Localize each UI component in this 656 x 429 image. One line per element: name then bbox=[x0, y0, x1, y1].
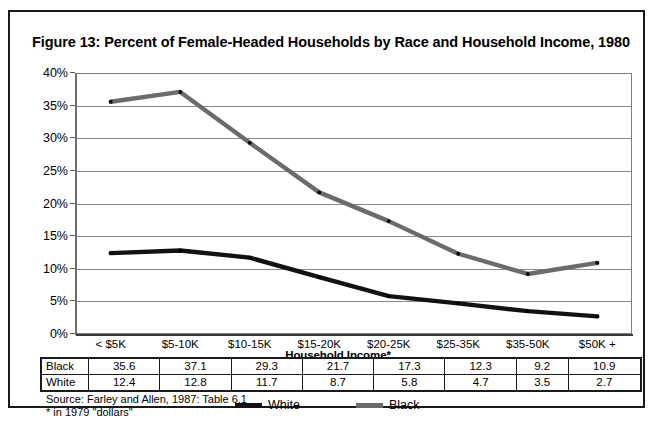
table-cell: 4.7 bbox=[445, 375, 516, 392]
y-tick-label: 0% bbox=[22, 328, 68, 340]
table-cell: 17.3 bbox=[374, 358, 445, 375]
table-row-label: White bbox=[41, 375, 89, 392]
y-axis-line bbox=[75, 73, 77, 335]
data-table: Black35.637.129.321.717.312.39.210.9Whit… bbox=[40, 357, 642, 392]
table-cell: 37.1 bbox=[160, 358, 231, 375]
chart-legend: WhiteBlack bbox=[235, 398, 495, 412]
legend-swatch-icon bbox=[235, 403, 262, 408]
source-line: Source: Farley and Allen, 1987: Table 6.… bbox=[46, 393, 247, 406]
table-cell: 12.3 bbox=[445, 358, 516, 375]
table-cell: 12.8 bbox=[160, 375, 231, 392]
figure-title: Figure 13: Percent of Female-Headed Hous… bbox=[32, 34, 630, 50]
table-row-label: Black bbox=[41, 358, 89, 375]
y-tick-mark bbox=[70, 300, 75, 301]
y-tick-mark bbox=[70, 105, 75, 106]
y-tick-label: 25% bbox=[22, 165, 68, 177]
gridline bbox=[77, 138, 631, 139]
legend-label: White bbox=[268, 398, 300, 412]
legend-item-white: White bbox=[235, 398, 300, 412]
x-axis-line bbox=[76, 334, 633, 336]
y-tick-label: 10% bbox=[22, 263, 68, 275]
gridline bbox=[77, 106, 631, 107]
table-cell: 8.7 bbox=[302, 375, 373, 392]
y-tick-label: 5% bbox=[22, 295, 68, 307]
figure-frame: Figure 13: Percent of Female-Headed Hous… bbox=[8, 10, 645, 408]
footnote-line: * in 1979 "dollars" bbox=[46, 406, 247, 419]
source-block: Source: Farley and Allen, 1987: Table 6.… bbox=[46, 393, 247, 418]
gridline bbox=[77, 236, 631, 237]
gridline bbox=[77, 171, 631, 172]
gridline bbox=[77, 204, 631, 205]
table-cell: 3.5 bbox=[516, 375, 568, 392]
gridline bbox=[77, 269, 631, 270]
table-row: White12.412.811.78.75.84.73.52.7 bbox=[41, 375, 641, 392]
y-tick-mark bbox=[70, 203, 75, 204]
plot-area bbox=[76, 73, 632, 334]
y-tick-label: 40% bbox=[22, 67, 68, 79]
table-cell: 12.4 bbox=[89, 375, 160, 392]
table-cell: 5.8 bbox=[374, 375, 445, 392]
table-cell: 9.2 bbox=[516, 358, 568, 375]
legend-label: Black bbox=[389, 398, 420, 412]
y-tick-mark bbox=[70, 268, 75, 269]
table-cell: 10.9 bbox=[568, 358, 641, 375]
table-cell: 29.3 bbox=[231, 358, 302, 375]
y-tick-mark bbox=[70, 333, 75, 334]
table-cell: 11.7 bbox=[231, 375, 302, 392]
legend-swatch-icon bbox=[356, 403, 383, 408]
legend-item-black: Black bbox=[356, 398, 420, 412]
y-tick-label: 20% bbox=[22, 198, 68, 210]
gridline bbox=[77, 301, 631, 302]
y-tick-mark bbox=[70, 235, 75, 236]
y-tick-label: 30% bbox=[22, 132, 68, 144]
table-cell: 2.7 bbox=[568, 375, 641, 392]
y-tick-mark bbox=[70, 137, 75, 138]
table-row: Black35.637.129.321.717.312.39.210.9 bbox=[41, 358, 641, 375]
table-cell: 21.7 bbox=[302, 358, 373, 375]
table-cell: 35.6 bbox=[89, 358, 160, 375]
y-tick-label: 15% bbox=[22, 230, 68, 242]
y-tick-mark bbox=[70, 170, 75, 171]
y-tick-mark bbox=[70, 72, 75, 73]
y-tick-label: 35% bbox=[22, 100, 68, 112]
